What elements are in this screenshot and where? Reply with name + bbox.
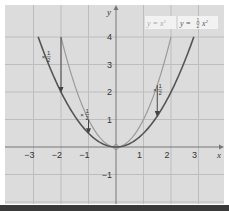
scale-label-prefix: × bbox=[153, 87, 157, 93]
legend-label-half-x-squared: y = bbox=[179, 19, 191, 28]
x-tick-label: −3 bbox=[24, 150, 34, 160]
legend: y = x2y = 12x2 bbox=[145, 16, 218, 29]
x-tick-label: −2 bbox=[52, 150, 62, 160]
y-tick-label: 1 bbox=[107, 115, 112, 125]
bottom-border bbox=[0, 205, 229, 211]
x-tick-label: 2 bbox=[164, 150, 169, 160]
x-tick-label: −1 bbox=[79, 150, 89, 160]
y-tick-label: −1 bbox=[102, 170, 112, 180]
x-axis-label: x bbox=[216, 150, 221, 160]
parabola-chart: −3−2−11234321−1 ×12×12×12 y = x2y = 12x2… bbox=[0, 0, 229, 205]
legend-frac-den: 2 bbox=[197, 23, 200, 29]
y-tick-label: 3 bbox=[107, 60, 112, 70]
y-tick-label: 2 bbox=[107, 87, 112, 97]
scale-label-prefix: × bbox=[80, 112, 84, 118]
x-tick-label: 1 bbox=[137, 150, 142, 160]
legend-label-x-squared: y = x2 bbox=[146, 19, 167, 28]
y-axis-label: y bbox=[106, 7, 111, 17]
y-tick-label: 4 bbox=[107, 32, 112, 42]
scale-label-prefix: × bbox=[42, 54, 46, 60]
x-tick-label: 3 bbox=[192, 150, 197, 160]
